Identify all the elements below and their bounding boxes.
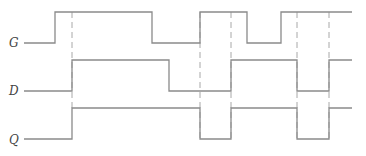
signal-label-q: Q [9,134,19,146]
timing-diagram [0,0,366,156]
waveform-g [24,12,352,43]
waveform-d [24,60,352,91]
waveforms [24,12,352,139]
waveform-q [24,108,352,139]
signal-label-g: G [9,37,19,49]
signal-label-d: D [9,85,19,97]
